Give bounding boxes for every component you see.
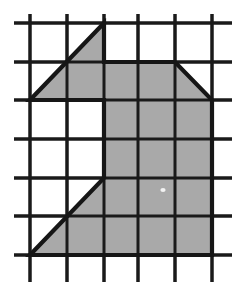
geometry-figure-svg [0,0,243,291]
figure-container [0,0,243,291]
white-speck-artifact [160,188,165,192]
